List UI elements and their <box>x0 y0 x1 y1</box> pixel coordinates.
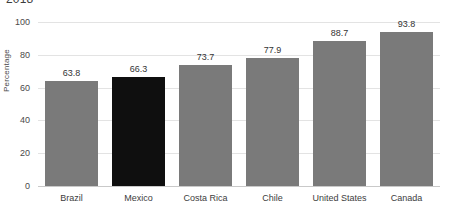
bar-mexico <box>112 77 165 186</box>
y-axis-tick-label: 0 <box>0 181 30 191</box>
bar-value-label: 66.3 <box>112 64 165 74</box>
bar-canada <box>380 32 433 186</box>
chart-title: 2018 <box>6 0 34 6</box>
x-axis-tick-label: Chile <box>239 193 306 203</box>
y-axis-tick-label: 40 <box>0 115 30 125</box>
y-axis-tick-label: 100 <box>0 17 30 27</box>
bar-chile <box>246 58 299 186</box>
x-axis-tick-label: Brazil <box>38 193 105 203</box>
bar-united-states <box>313 41 366 186</box>
bar-chart-figure: { "chart_data": { "type": "bar", "title"… <box>0 0 449 214</box>
x-axis-tick-label: United States <box>306 193 373 203</box>
x-axis-tick-label: Costa Rica <box>172 193 239 203</box>
bar-costa-rica <box>179 65 232 186</box>
bar-value-label: 88.7 <box>313 28 366 38</box>
x-axis-tick-label: Canada <box>373 193 440 203</box>
bar-value-label: 77.9 <box>246 45 299 55</box>
y-axis-tick-label: 60 <box>0 83 30 93</box>
x-axis-baseline <box>38 186 440 187</box>
x-axis-tick-label: Mexico <box>105 193 172 203</box>
bar-value-label: 93.8 <box>380 19 433 29</box>
bar-value-label: 73.7 <box>179 52 232 62</box>
y-axis-tick-label: 80 <box>0 50 30 60</box>
bar-value-label: 63.8 <box>45 68 98 78</box>
plot-area <box>38 22 440 186</box>
y-axis-tick-label: 20 <box>0 148 30 158</box>
bar-brazil <box>45 81 98 186</box>
